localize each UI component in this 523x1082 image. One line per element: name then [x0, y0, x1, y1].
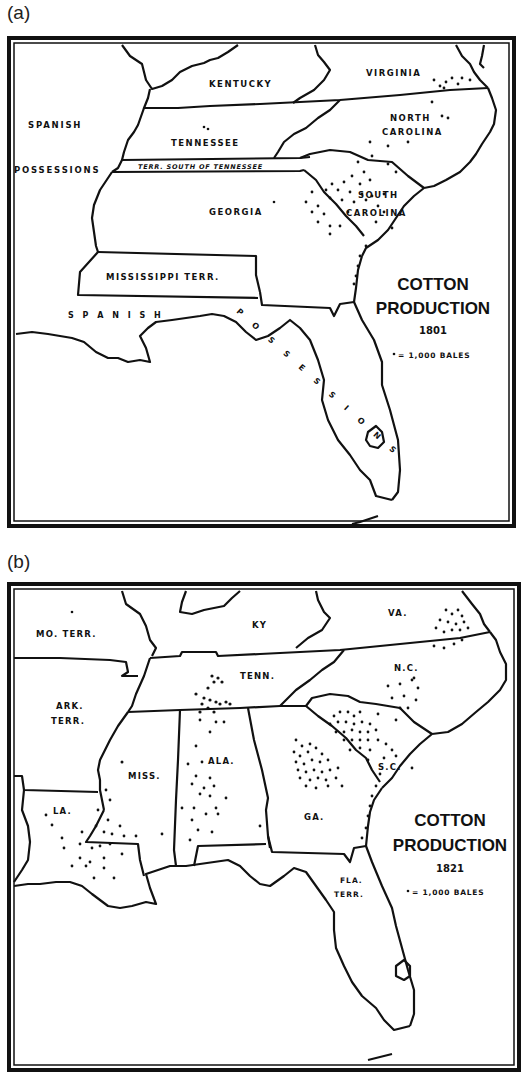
legend-dot-icon	[393, 353, 396, 356]
cotton-dots-1801	[203, 77, 472, 286]
label-georgia: GEORGIA	[209, 207, 263, 217]
label-north-carolina-1: NORTH	[390, 113, 431, 123]
label-possessions: POSSESSIONS	[14, 165, 100, 175]
legend-year: 1801	[419, 325, 447, 336]
label-north-carolina-2: CAROLINA	[382, 127, 443, 137]
label-ark-1: ARK.	[56, 701, 84, 711]
label-ky: KY	[252, 620, 267, 630]
label-miss: MISS.	[128, 771, 161, 781]
legend-key: = 1,000 BALES	[412, 888, 484, 897]
label-tennessee: TENNESSEE	[171, 138, 240, 148]
map-labels-1821: MO. TERR. KY VA. ARK. TERR. TENN. N.C. M…	[36, 608, 419, 899]
cotton-map-1801: KENTUCKY VIRGINIA SPANISH POSSESSIONS TE…	[0, 0, 523, 540]
panel-label-b: (b)	[7, 551, 30, 573]
label-ga: GA.	[304, 812, 325, 822]
label-south-carolina-2: CAROLINA	[346, 208, 407, 218]
state-borders	[14, 591, 506, 1060]
legend-title-line2: PRODUCTION	[376, 299, 490, 318]
legend-key: = 1,000 BALES	[398, 351, 470, 360]
label-fla-2: TERR.	[334, 890, 364, 899]
legend-year: 1821	[436, 863, 464, 874]
label-possessions-florida: P O S S E S S I O N S	[235, 307, 402, 459]
legend-dot-icon	[407, 890, 410, 893]
label-kentucky: KENTUCKY	[209, 79, 272, 89]
label-virginia: VIRGINIA	[366, 68, 421, 78]
label-sc: S.C.	[378, 762, 402, 772]
label-fla-1: FLA.	[340, 876, 363, 885]
label-terr-south-of-tennessee: TERR. SOUTH OF TENNESSEE	[138, 163, 263, 171]
label-south-carolina-1: SOUTH	[358, 190, 399, 200]
label-mississippi-terr: MISSISSIPPI TERR.	[106, 272, 220, 282]
label-spanish-gulf: S P A N I S H	[68, 311, 164, 320]
legend-1821: COTTON PRODUCTION 1821 = 1,000 BALES	[393, 811, 507, 897]
label-tenn: TENN.	[240, 671, 275, 681]
legend-1801: COTTON PRODUCTION 1801 = 1,000 BALES	[376, 275, 490, 360]
cotton-dots-1821	[45, 609, 470, 880]
label-la: LA.	[53, 806, 72, 816]
label-ala: ALA.	[208, 756, 235, 766]
label-spanish: SPANISH	[28, 120, 82, 130]
label-nc: N.C.	[394, 663, 419, 673]
label-ark-2: TERR.	[51, 716, 85, 726]
map-labels-1801: KENTUCKY VIRGINIA SPANISH POSSESSIONS TE…	[14, 68, 443, 459]
legend-title-line1: COTTON	[414, 811, 485, 830]
map-frame	[9, 584, 519, 1070]
label-va: VA.	[388, 608, 408, 618]
label-mo-terr: MO. TERR.	[36, 629, 97, 639]
legend-title-line2: PRODUCTION	[393, 836, 507, 855]
legend-title-line1: COTTON	[397, 275, 468, 294]
